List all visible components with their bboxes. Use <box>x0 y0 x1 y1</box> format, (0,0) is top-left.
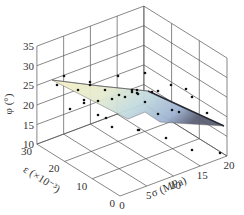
data-point <box>118 94 121 97</box>
data-point <box>136 89 139 92</box>
data-point <box>77 89 80 92</box>
data-point <box>89 84 92 87</box>
data-point <box>63 75 66 78</box>
x-tick-label: 20 <box>224 159 236 171</box>
data-point <box>170 84 173 87</box>
data-point <box>206 112 209 115</box>
data-point <box>185 88 188 91</box>
data-point <box>136 92 139 95</box>
y-tick-label: 30 <box>21 145 33 157</box>
surface-plot: 101520253035051015200102030 φ (°) ε (×10… <box>0 0 244 215</box>
grid-line <box>144 26 227 78</box>
data-point <box>56 84 59 87</box>
z-axis-label: φ (°) <box>2 93 15 114</box>
data-point <box>83 102 86 105</box>
data-point <box>138 129 141 132</box>
data-point <box>111 98 114 101</box>
x-tick-label: 0 <box>119 199 125 211</box>
data-point <box>144 72 147 75</box>
data-point <box>117 75 120 78</box>
z-tick-label: 20 <box>23 99 35 111</box>
data-point <box>69 108 72 111</box>
z-tick-label: 30 <box>23 60 35 72</box>
data-point <box>165 137 168 140</box>
data-point <box>124 96 127 99</box>
y-tick-label: 20 <box>49 162 61 174</box>
grid-line <box>64 134 147 186</box>
grid-line <box>144 6 227 58</box>
x-tick-label: 15 <box>197 169 209 181</box>
data-point <box>219 152 222 155</box>
data-point <box>157 113 160 116</box>
data-point <box>151 91 154 94</box>
data-point <box>104 89 107 92</box>
data-point <box>97 100 100 103</box>
data-point <box>171 109 174 112</box>
data-point <box>83 99 86 102</box>
data-point <box>131 91 134 94</box>
data-point <box>191 96 194 99</box>
data-point <box>105 117 108 120</box>
data-point <box>178 111 181 114</box>
data-point <box>111 126 114 129</box>
z-tick-label: 25 <box>23 79 35 91</box>
data-point <box>89 81 92 84</box>
data-point <box>97 114 100 117</box>
y-tick-label: 0 <box>110 197 116 209</box>
data-point <box>144 101 147 104</box>
grid-line <box>90 124 173 176</box>
z-tick-label: 15 <box>23 119 35 131</box>
data-point <box>191 149 194 152</box>
data-point <box>157 90 160 93</box>
z-tick-label: 35 <box>23 40 35 52</box>
y-tick-label: 10 <box>76 180 88 192</box>
